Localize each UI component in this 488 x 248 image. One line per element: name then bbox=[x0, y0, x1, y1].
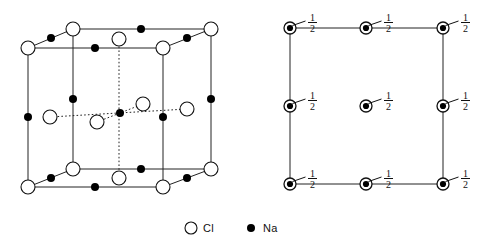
na-atom bbox=[24, 113, 32, 121]
crystal-structure-figure: 121212121212121212ClNa bbox=[0, 0, 488, 248]
figure-canvas: 121212121212121212ClNa bbox=[0, 0, 488, 248]
cl-atom bbox=[156, 41, 170, 55]
projection-site: 12 bbox=[437, 168, 470, 191]
fraction-denominator: 2 bbox=[463, 101, 468, 112]
fraction-denominator: 2 bbox=[310, 101, 315, 112]
fraction-numerator: 1 bbox=[386, 90, 391, 101]
fraction-numerator: 1 bbox=[463, 168, 468, 179]
fraction-denominator: 2 bbox=[310, 179, 315, 190]
cl-atom bbox=[156, 180, 170, 194]
legend-label: Cl bbox=[203, 222, 214, 234]
open-circle-icon bbox=[185, 222, 197, 234]
na-atom bbox=[440, 25, 446, 31]
cl-atom bbox=[21, 41, 35, 55]
unit-cell-3d bbox=[21, 22, 218, 194]
na-atom bbox=[440, 181, 446, 187]
fraction-numerator: 1 bbox=[463, 12, 468, 23]
projection-site: 12 bbox=[360, 168, 393, 191]
na-atom bbox=[207, 95, 215, 103]
cl-atom bbox=[90, 115, 104, 129]
projection-site: 12 bbox=[360, 12, 393, 35]
fraction-numerator: 1 bbox=[386, 12, 391, 23]
na-atom bbox=[363, 181, 369, 187]
projection-site: 12 bbox=[284, 12, 317, 35]
na-atom bbox=[91, 183, 99, 191]
cl-atom bbox=[180, 102, 194, 116]
cl-atom bbox=[21, 180, 35, 194]
na-atom bbox=[47, 34, 55, 42]
cl-atom bbox=[43, 110, 57, 124]
na-atom bbox=[137, 25, 145, 33]
projection-site: 12 bbox=[284, 168, 317, 191]
cl-atom bbox=[66, 162, 80, 176]
fraction-numerator: 1 bbox=[310, 168, 315, 179]
filled-circle-icon bbox=[247, 224, 255, 232]
na-atom bbox=[363, 103, 369, 109]
cl-atom bbox=[112, 32, 126, 46]
cl-atom bbox=[204, 22, 218, 36]
fraction-numerator: 1 bbox=[386, 168, 391, 179]
fraction-denominator: 2 bbox=[386, 101, 391, 112]
na-atom bbox=[116, 109, 124, 117]
na-atom bbox=[183, 34, 191, 42]
na-atom bbox=[287, 103, 293, 109]
fraction-denominator: 2 bbox=[386, 23, 391, 34]
fraction-numerator: 1 bbox=[310, 12, 315, 23]
cl-atom bbox=[136, 97, 150, 111]
na-atom bbox=[69, 95, 77, 103]
cl-atom bbox=[66, 22, 80, 36]
legend-label: Na bbox=[263, 222, 278, 234]
legend: ClNa bbox=[185, 222, 278, 234]
fraction-numerator: 1 bbox=[310, 90, 315, 101]
na-atom bbox=[287, 181, 293, 187]
na-atom bbox=[363, 25, 369, 31]
fraction-denominator: 2 bbox=[386, 179, 391, 190]
na-atom bbox=[440, 103, 446, 109]
projection-site: 12 bbox=[360, 90, 393, 113]
fraction-denominator: 2 bbox=[310, 23, 315, 34]
projection-site: 12 bbox=[437, 12, 470, 35]
fraction-denominator: 2 bbox=[463, 23, 468, 34]
na-atom bbox=[183, 174, 191, 182]
na-atom bbox=[287, 25, 293, 31]
projection-site: 12 bbox=[284, 90, 317, 113]
cl-atom bbox=[112, 171, 126, 185]
na-atom bbox=[159, 113, 167, 121]
projection-2d: 121212121212121212 bbox=[284, 12, 470, 191]
na-atom bbox=[91, 44, 99, 52]
fraction-numerator: 1 bbox=[463, 90, 468, 101]
cl-atom bbox=[204, 162, 218, 176]
fraction-denominator: 2 bbox=[463, 179, 468, 190]
legend-item: Na bbox=[247, 222, 278, 234]
na-atom bbox=[47, 174, 55, 182]
na-atom bbox=[137, 165, 145, 173]
projection-site: 12 bbox=[437, 90, 470, 113]
legend-item: Cl bbox=[185, 222, 214, 234]
